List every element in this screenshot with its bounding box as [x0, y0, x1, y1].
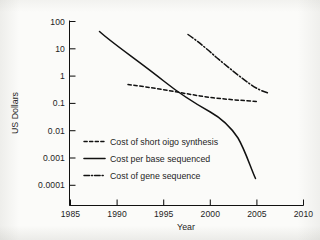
- x-axis-title: Year: [177, 222, 195, 232]
- series-cost-of-short-oigo-synthesis: [128, 85, 258, 102]
- y-axis-ticks: [70, 22, 76, 206]
- y-axis-tick-labels: 100 10 1 0.1 0.01 0.001 0.0001: [38, 17, 65, 191]
- chart-legend: Cost of short oigo synthesis Cost per ba…: [84, 137, 219, 181]
- series-cost-of-gene-sequence: [188, 35, 269, 94]
- y-tick-label: 0.0001: [38, 180, 65, 190]
- x-tick-label: 2010: [294, 209, 314, 219]
- chart-page: 100 10 1 0.1 0.01 0.001 0.0001 1985 1990…: [0, 0, 320, 240]
- y-tick-label: 10: [55, 44, 65, 54]
- y-tick-label: 0.1: [53, 98, 65, 108]
- legend-label-dash-dot: Cost of gene sequence: [110, 171, 201, 181]
- x-tick-label: 2000: [201, 209, 221, 219]
- y-tick-label: 1: [60, 71, 65, 81]
- x-axis-ticks: [71, 200, 304, 206]
- y-axis-title: US Dollars: [10, 91, 20, 134]
- y-tick-label: 0.001: [43, 153, 65, 163]
- y-tick-label: 100: [50, 17, 65, 27]
- legend-label-dashed: Cost of short oigo synthesis: [110, 137, 219, 147]
- y-tick-label: 0.01: [48, 126, 65, 136]
- x-tick-label: 1990: [107, 209, 127, 219]
- x-tick-label: 1985: [61, 209, 81, 219]
- x-axis-tick-labels: 1985 1990 1995 2000 2005 2010: [61, 209, 314, 219]
- x-tick-label: 2005: [247, 209, 267, 219]
- x-tick-label: 1995: [154, 209, 174, 219]
- legend-label-solid: Cost per base sequenced: [110, 154, 210, 164]
- cost-trends-chart: 100 10 1 0.1 0.01 0.001 0.0001 1985 1990…: [0, 0, 320, 240]
